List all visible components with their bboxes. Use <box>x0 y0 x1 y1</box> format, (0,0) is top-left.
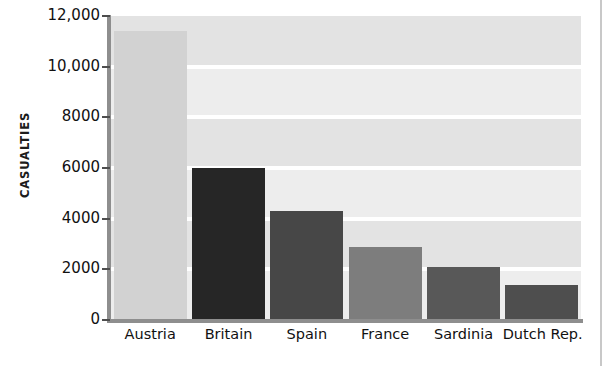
y-tick-label: 6000 <box>62 158 100 176</box>
bar-dutch-rep[interactable] <box>505 285 578 320</box>
x-axis-spine <box>107 319 583 323</box>
bar-britain[interactable] <box>192 168 265 320</box>
y-tick-label: 12,000 <box>48 6 101 24</box>
bar-spain[interactable] <box>270 211 343 320</box>
x-axis-labels: AustriaBritainSpainFranceSardiniaDutch R… <box>111 326 581 356</box>
x-tick-label-britain: Britain <box>189 326 267 342</box>
y-tick-label: 10,000 <box>48 57 101 75</box>
y-axis: 12,00010,00080006000400020000 <box>0 0 112 366</box>
x-tick-label-france: France <box>346 326 424 342</box>
y-tick-mark <box>102 218 110 220</box>
figure-right-border <box>600 0 602 366</box>
bar-sardinia[interactable] <box>427 267 500 320</box>
bar-austria[interactable] <box>114 31 187 320</box>
x-tick-label-dutch-rep: Dutch Rep. <box>503 326 581 342</box>
y-tick-label: 0 <box>90 310 100 328</box>
y-tick-mark <box>102 268 110 270</box>
y-tick-label: 2000 <box>62 259 100 277</box>
y-tick-mark <box>102 116 110 118</box>
y-tick-mark <box>102 15 110 17</box>
y-tick-mark <box>102 167 110 169</box>
plot-area <box>111 16 581 320</box>
x-tick-label-austria: Austria <box>111 326 189 342</box>
y-tick-mark <box>102 66 110 68</box>
y-tick-label: 8000 <box>62 107 100 125</box>
x-tick-label-spain: Spain <box>268 326 346 342</box>
bar-france[interactable] <box>349 247 422 320</box>
x-tick-label-sardinia: Sardinia <box>424 326 502 342</box>
y-tick-label: 4000 <box>62 209 100 227</box>
y-tick-mark <box>102 319 110 321</box>
bar-chart-figure: CASUALTIES 12,00010,00080006000400020000… <box>0 0 612 366</box>
